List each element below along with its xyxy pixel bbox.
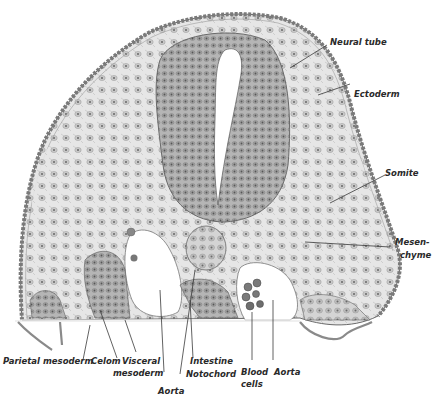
label-somite: Somite: [385, 168, 419, 178]
label-visceral-1: Visceral: [122, 356, 161, 366]
label-notochord: Notochord: [186, 369, 237, 379]
label-ectoderm: Ectoderm: [354, 89, 400, 99]
label-aorta-right: Aorta: [273, 367, 301, 377]
label-blood-1: Blood: [241, 367, 269, 377]
label-visceral-2: mesoderm: [113, 368, 164, 378]
somite-right: [292, 135, 368, 255]
label-celom: Celom: [91, 356, 121, 366]
label-mesenchyme-2: chyme: [400, 250, 431, 260]
label-parietal-mesoderm: Parietal mesoderm: [3, 356, 94, 366]
label-aorta-left: Aorta: [157, 386, 185, 396]
lower-tissue-fringe: [18, 322, 372, 350]
label-neural-tube: Neural tube: [330, 37, 387, 47]
label-blood-2: cells: [241, 379, 263, 389]
embryo-section-figure: Neural tube Ectoderm Somite Mesen- chyme…: [0, 0, 435, 399]
somite-left: [32, 130, 128, 270]
label-mesenchyme-1: Mesen-: [395, 237, 430, 247]
notochord: [186, 226, 226, 270]
label-intestine: Intestine: [190, 356, 233, 366]
